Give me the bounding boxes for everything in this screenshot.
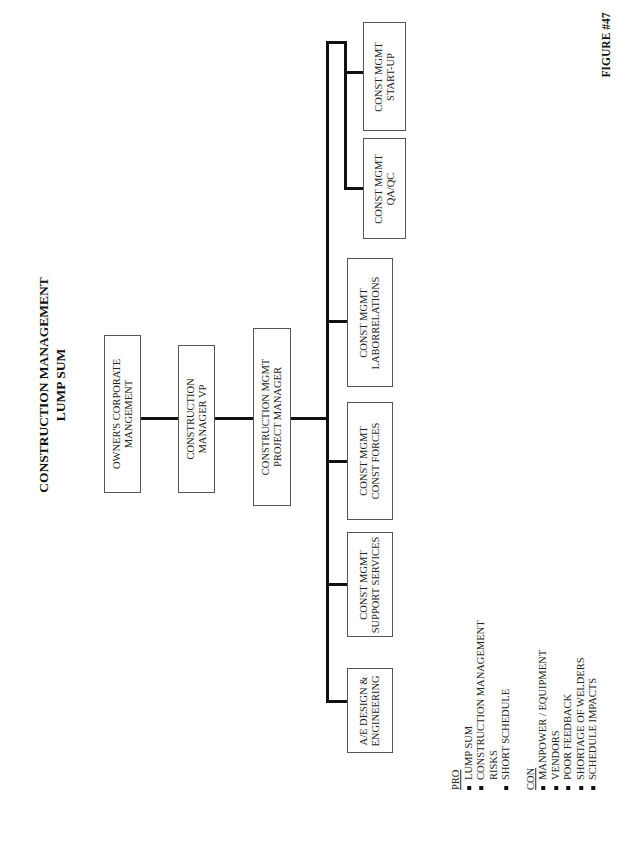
connector-owner-vp (140, 417, 178, 420)
box-line-2: MANAGER VP (197, 378, 209, 459)
connector-sub-qaqc (344, 187, 364, 190)
connector-bus-ae (326, 700, 348, 703)
const-forces-box: CONST MGMT CONST FORCES (347, 402, 393, 520)
box-line-2: ENGINEERING (370, 675, 382, 746)
pro-item: LUMP SUM (463, 570, 476, 790)
qa-qc-box: CONST MGMT QA/QC (363, 138, 406, 239)
connector-bus-labor (326, 320, 348, 323)
support-services-box: CONST MGMT SUPPORT SERVICES (347, 532, 393, 637)
con-item: VENDORS (550, 570, 563, 790)
labor-relations-box: CONST MGMT LABORRELATIONS (347, 258, 393, 387)
box-line-2: START-UP (385, 42, 397, 112)
connector-bus-support (326, 583, 348, 586)
construction-manager-vp-box: CONSTRUCTION MANAGER VP (178, 345, 215, 493)
title-line-2: LUMP SUM (52, 277, 69, 493)
con-item: SHORTAGE OF WELDERS (575, 570, 588, 790)
pro-item: RISKS (488, 570, 501, 790)
box-line-2: SUPPORT SERVICES (370, 536, 382, 633)
ae-design-engineering-box: A/E DESIGN & ENGINEERING (347, 668, 393, 753)
main-vertical-bus (326, 41, 329, 703)
box-line-2: PROJECT MANAGER (272, 359, 284, 475)
pro-con-lists: PRO LUMP SUM CONSTRUCTION MANAGEMENT RIS… (450, 570, 600, 790)
box-line-1: CONST MGMT (358, 423, 370, 500)
pro-header: PRO (450, 570, 463, 790)
pro-item: SHORT SCHEDULE (500, 570, 513, 790)
box-line-1: OWNER'S CORPORATE (111, 359, 123, 469)
box-line-1: CONSTRUCTION MGMT (260, 359, 272, 475)
box-line-1: CONST MGMT (358, 536, 370, 633)
sub-vertical-bus (344, 41, 347, 190)
box-line-1: CONST MGMT (373, 154, 385, 224)
list-spacer (513, 570, 525, 790)
connector-pm-bus (290, 417, 328, 420)
connector-vp-pm (214, 417, 253, 420)
diagram-title: CONSTRUCTION MANAGEMENT LUMP SUM (35, 277, 69, 493)
connector-bus-forces (326, 460, 348, 463)
box-line-2: CONST FORCES (370, 423, 382, 500)
box-line-1: CONST MGMT (373, 42, 385, 112)
box-line-2: QA/QC (385, 154, 397, 224)
con-item: SCHEDULE IMPACTS (587, 570, 600, 790)
box-line-1: A/E DESIGN & (358, 675, 370, 746)
con-item: POOR FEEDBACK (562, 570, 575, 790)
box-line-1: CONSTRUCTION (185, 378, 197, 459)
con-item: MANPOWER / EQUIPMENT (537, 570, 550, 790)
owner-corporate-management-box: OWNER'S CORPORATE MANGEMENT (104, 335, 141, 493)
box-line-2: LABORRELATIONS (370, 276, 382, 369)
title-line-1: CONSTRUCTION MANAGEMENT (35, 277, 52, 493)
pro-item: CONSTRUCTION MANAGEMENT (475, 570, 488, 790)
box-line-1: CONST MGMT (358, 276, 370, 369)
connector-sub-startup (344, 71, 364, 74)
box-line-2: MANGEMENT (123, 359, 135, 469)
con-header: CON (525, 570, 538, 790)
figure-label: FIGURE #47 (600, 13, 612, 78)
start-up-box: CONST MGMT START-UP (363, 22, 406, 131)
project-manager-box: CONSTRUCTION MGMT PROJECT MANAGER (253, 328, 291, 506)
